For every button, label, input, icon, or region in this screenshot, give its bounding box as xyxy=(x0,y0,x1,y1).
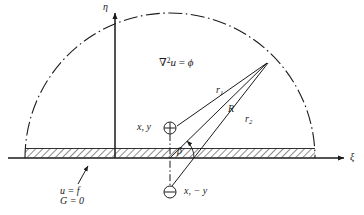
pde-equation-label: ∇2u = ϕ xyxy=(159,57,193,68)
r1-subscript: 1 xyxy=(220,89,223,96)
boundary-condition-leader-arrow xyxy=(78,166,88,184)
figure-root: η ξ ∇2u = ϕ r1 R r2 x, y x, − y β u = f … xyxy=(0,0,364,215)
boundary-condition-G-label: G = 0 xyxy=(60,196,84,206)
xi-axis-label: ξ xyxy=(350,152,354,162)
r2-subscript: 2 xyxy=(249,118,252,125)
beta-angle-label: β xyxy=(177,146,182,156)
pde-equals: = xyxy=(176,56,188,68)
r1-label: r1 xyxy=(216,85,223,97)
circled-minus-icon xyxy=(164,186,176,198)
eta-axis-label: η xyxy=(103,2,108,12)
figure-canvas xyxy=(0,0,364,215)
pde-rhs: ϕ xyxy=(188,56,194,68)
image-point-label: x, − y xyxy=(184,186,207,196)
distance-line-r2 xyxy=(172,63,268,186)
circled-plus-icon xyxy=(164,122,176,134)
r2-label: r2 xyxy=(245,114,252,126)
nabla-symbol: ∇ xyxy=(159,56,167,68)
R-label: R xyxy=(228,104,234,114)
source-point-label: x, y xyxy=(137,122,151,132)
distance-line-R xyxy=(170,63,267,158)
